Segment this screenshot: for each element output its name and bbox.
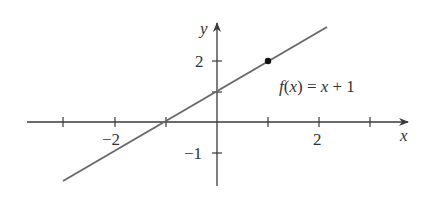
y-tick-label-neg1: −1: [184, 144, 202, 163]
y-tick-label-2: 2: [195, 52, 204, 71]
x-axis-label: x: [399, 126, 408, 145]
x-tick-label-2: 2: [313, 130, 322, 149]
y-axis-label: y: [198, 19, 208, 38]
function-label: f(x) = x + 1: [279, 77, 355, 96]
x-tick-label-neg2: −2: [102, 130, 120, 149]
function-graph: −2 2 2 −1 y x f(x) = x + 1: [0, 0, 437, 199]
highlighted-point: [265, 58, 271, 64]
